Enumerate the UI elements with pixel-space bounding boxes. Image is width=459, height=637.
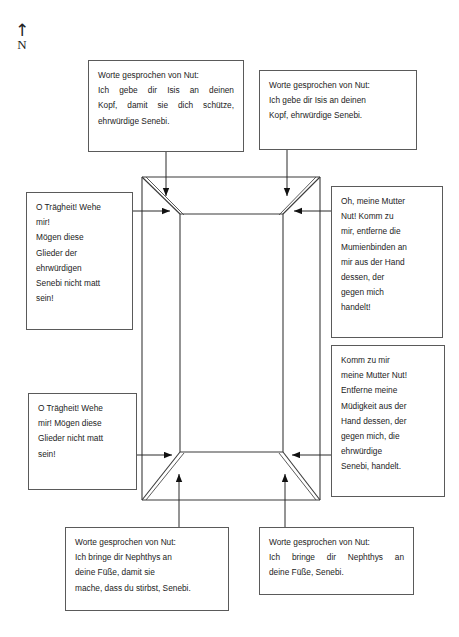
annotation-line: Senebi nicht matt — [36, 276, 123, 291]
annotation-line: Worte gesprochen von Nut: — [75, 535, 219, 550]
annotation-line: Glieder nicht matt — [38, 431, 127, 446]
annotation-line: Mumienbinden an — [341, 240, 433, 255]
annotation-line: Ich bringe dir Nephthys an — [269, 550, 404, 565]
annotation-line: Worte gesprochen von Nut: — [269, 535, 404, 550]
annotation-line: Mögen diese — [36, 230, 123, 245]
annotation-line: Oh, meine Mutter — [341, 194, 433, 209]
annotation-line: Glieder der — [36, 246, 123, 261]
annotation-side-right-upper: Oh, meine Mutter Nut! Komm zu mir, entfe… — [331, 186, 443, 338]
annotation-line: ehrwürdige Senebi. — [98, 114, 234, 129]
annotation-line: gegen mich, die — [341, 429, 435, 444]
annotation-line: Worte gesprochen von Nut: — [269, 78, 407, 93]
annotation-line: deine Füße, damit sie — [75, 565, 219, 580]
annotation-line: Hand dessen, der — [341, 414, 435, 429]
annotation-line: mir, entferne die — [341, 224, 433, 239]
annotation-line: dessen, der — [341, 270, 433, 285]
annotation-line: Kopf, ehrwürdige Senebi. — [269, 108, 407, 123]
annotation-line: gegen mich — [341, 285, 433, 300]
annotation-line: Müdigkeit aus der — [341, 399, 435, 414]
annotation-line: ehrwürdigen — [36, 261, 123, 276]
annotation-line: ehrwürdige — [341, 444, 435, 459]
annotation-line: Komm zu mir — [341, 353, 435, 368]
coffin-long-sides — [180, 214, 283, 452]
annotation-line: O Trägheit! Wehe — [38, 401, 127, 416]
annotation-head-left: Worte gesprochen von Nut: Ich gebe dir I… — [88, 60, 244, 152]
annotation-line: Ich gebe dir Isis an deinen — [98, 83, 234, 98]
annotation-line: Ich gebe dir Isis an deinen — [269, 93, 407, 108]
annotation-line: Ich bringe dir Nephthys an — [75, 550, 219, 565]
annotation-line: Nut! Komm zu — [341, 209, 433, 224]
figure-canvas: ↑ N — [0, 0, 459, 637]
annotation-line: meine Mutter Nut! — [341, 368, 435, 383]
annotation-line: Entferne meine — [341, 383, 435, 398]
coffin-foot-end — [142, 452, 320, 500]
annotation-line: sein! — [36, 291, 123, 306]
annotation-line: Worte gesprochen von Nut: — [98, 68, 234, 83]
annotation-head-right: Worte gesprochen von Nut: Ich gebe dir I… — [259, 70, 417, 150]
annotation-line: mir aus der Hand — [341, 255, 433, 270]
annotation-line: Senebi, handelt. — [341, 459, 435, 474]
annotation-line: deine Füße, Senebi. — [269, 565, 404, 580]
annotation-line: O Trägheit! Wehe — [36, 200, 123, 215]
annotation-line: mir! — [36, 215, 123, 230]
annotation-side-right-lower: Komm zu mir meine Mutter Nut! Entferne m… — [331, 345, 445, 497]
annotation-foot-right: Worte gesprochen von Nut: Ich bringe dir… — [259, 527, 414, 595]
annotation-line: mir! Mögen diese — [38, 416, 127, 431]
annotation-side-left-lower: O Trägheit! Wehe mir! Mögen diese Gliede… — [28, 393, 137, 490]
annotation-foot-left: Worte gesprochen von Nut: Ich bringe dir… — [65, 527, 229, 611]
annotation-side-left-upper: O Trägheit! Wehe mir! Mögen diese Gliede… — [26, 192, 133, 330]
annotation-line: sein! — [38, 447, 127, 462]
annotation-line: mache, dass du stirbst, Senebi. — [75, 581, 219, 596]
annotation-line: Kopf, damit sie dich schütze, — [98, 98, 234, 113]
annotation-line: handelt! — [341, 300, 433, 315]
